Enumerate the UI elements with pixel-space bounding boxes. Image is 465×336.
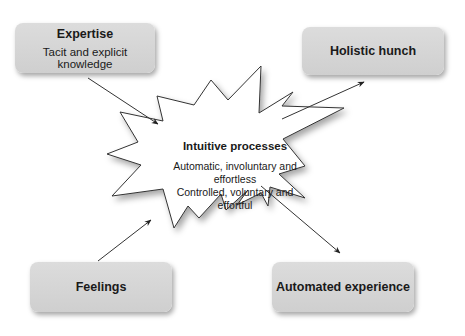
node-expertise-title: Expertise — [57, 27, 113, 41]
node-intuitive-processes: Intuitive processes Automatic, involunta… — [160, 140, 310, 212]
node-intuitive-processes-line2: Controlled, voluntary and effortful — [160, 186, 310, 212]
node-intuitive-processes-title: Intuitive processes — [160, 140, 310, 153]
node-holistic-hunch: Holistic hunch — [302, 27, 444, 75]
node-feelings-title: Feelings — [76, 280, 127, 294]
arrow-feelings-to-center — [98, 220, 151, 261]
node-intuitive-processes-line1: Automatic, involuntary and effortless — [160, 160, 310, 186]
node-holistic-hunch-title: Holistic hunch — [330, 44, 416, 58]
node-expertise-subtitle: Tacit and explicit knowledge — [15, 46, 155, 70]
node-expertise: Expertise Tacit and explicit knowledge — [15, 23, 155, 73]
node-automated-experience: Automated experience — [272, 262, 414, 312]
node-automated-experience-title: Automated experience — [276, 280, 410, 294]
node-feelings: Feelings — [30, 262, 172, 312]
